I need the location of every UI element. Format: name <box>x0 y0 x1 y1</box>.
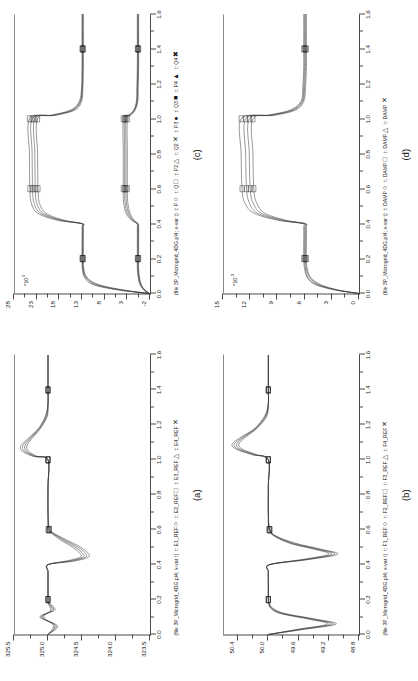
legend-marker-cross-icon: ✕ <box>381 97 388 103</box>
x-tick-minor-b <box>359 476 363 477</box>
x-tick-label-b: 1.0 <box>364 455 371 464</box>
x-tick-label-c: 0.8 <box>155 149 162 158</box>
y-tick-label-a: 325.0 <box>38 641 45 656</box>
y-tick-label-d: 9 <box>267 301 274 304</box>
legend-d: (file 3P_Microgrid_4DG.pl4; x-var t)t: D… <box>381 6 388 295</box>
x-tick-label-a: 0.6 <box>155 525 162 534</box>
x-tick-label-d: 1.0 <box>364 115 371 124</box>
legend-entry-label: t: Q2 <box>173 143 179 154</box>
y-tick-minor-d <box>344 294 345 298</box>
x-tick-minor-d <box>359 170 363 171</box>
x-tick-label-b: 0.8 <box>364 490 371 499</box>
x-tick-minor-d <box>359 135 363 136</box>
x-tick-minor-a <box>150 441 154 442</box>
legend-entry-d: t: DAMP○ <box>381 185 388 210</box>
legend-entry-b: t: F2_REF□ <box>381 488 388 517</box>
y-tick-minor-d <box>290 294 291 298</box>
x-tick-minor-d <box>359 275 363 276</box>
y-tick-label-d: 15 <box>213 301 220 308</box>
y-tick-c <box>126 294 127 300</box>
y-tick-a <box>47 634 48 640</box>
x-tick-label-c: 0.0 <box>155 289 162 298</box>
curve-marker-d <box>239 116 243 122</box>
y-tick-label-b: 48.8 <box>349 641 356 653</box>
x-tick-label-b: 1.4 <box>364 385 371 394</box>
legend-entry-b: t: F3_REF△ <box>381 455 388 485</box>
x-tick-label-a: 1.6 <box>155 350 162 359</box>
x-tick-label-b: 0.4 <box>364 560 371 569</box>
y-tick-c <box>36 294 37 300</box>
legend-entry-label: t: F2_REF <box>382 494 388 518</box>
x-tick-label-d: 1.4 <box>364 45 371 54</box>
x-tick-label-a: 1.4 <box>155 385 162 394</box>
legend-marker-triangle-icon: △ <box>381 455 388 460</box>
y-tick-minor-b <box>282 634 283 638</box>
legend-source-file-b: (file 3P_Microgrid_4DG.pl4; x-var t) <box>382 553 388 635</box>
x-tick-minor-b <box>359 581 363 582</box>
y-tick-label-a: 325.5 <box>4 641 11 656</box>
legend-entry-d: t: DAMP□ <box>381 157 388 182</box>
legend-entry-label: t: F4_REF <box>382 427 388 451</box>
legend-entry-label: t: Q3 <box>173 101 179 112</box>
x-tick-minor-c <box>150 135 154 136</box>
x-tick-label-d: 1.2 <box>364 80 371 89</box>
curve-a <box>27 355 82 635</box>
legend-entry-c: t: Q3■ <box>172 95 179 112</box>
legend-marker-square-icon: □ <box>172 488 179 492</box>
curve-layer-d <box>223 14 359 294</box>
y-tick-minor-b <box>343 634 344 638</box>
y-tick-c <box>58 294 59 300</box>
y-tick-label-c: 13 <box>72 301 79 308</box>
x-tick-minor-c <box>150 170 154 171</box>
x-tick-label-b: 1.2 <box>364 420 371 429</box>
x-tick-label-a: 0.2 <box>155 595 162 604</box>
x-tick-minor-c <box>150 100 154 101</box>
y-tick-label-b: 49.2 <box>318 641 325 653</box>
legend-entry-label: t: E3_REF <box>173 460 179 484</box>
y-tick-label-d: 12 <box>240 301 247 308</box>
curve-a <box>22 355 86 635</box>
y-tick-a <box>115 634 116 640</box>
legend-entry-label: t: P <box>173 202 179 210</box>
legend-entry-a: t: E4_REF✕ <box>172 419 179 450</box>
x-tick-minor-a <box>150 616 154 617</box>
legend-entry-a: t: E3_REF△ <box>172 454 179 484</box>
y-tick-label-b: 50.4 <box>228 641 235 653</box>
x-tick-minor-c <box>150 275 154 276</box>
y-tick-minor-a <box>98 634 99 638</box>
legend-entry-a: t: E2_REF□ <box>172 488 179 517</box>
legend-marker-bold-cross-icon: ✖ <box>172 50 179 56</box>
legend-entry-c: t: P○ <box>172 197 179 210</box>
legend-entry-label: t: E1_REF <box>173 526 179 550</box>
y-tick-minor-b <box>252 634 253 638</box>
legend-entry-label: t: P2 <box>173 164 179 175</box>
legend-entry-d: t: DAMP✕ <box>381 97 388 123</box>
y-tick-b <box>358 634 359 640</box>
y-tick-label-d: 0 <box>349 301 356 304</box>
y-tick-b <box>237 634 238 640</box>
legend-entry-label: t: F3_REF <box>382 461 388 485</box>
legend-entry-a: t: E1_REF○ <box>172 521 179 550</box>
legend-entry-label: t: P3 <box>173 121 179 132</box>
x-tick-minor-a <box>150 371 154 372</box>
x-tick-label-a: 0.0 <box>155 630 162 639</box>
panel-d: *10-3 036912150.00.20.40.60.81.01.21.41.… <box>209 0 418 341</box>
x-tick-label-a: 0.8 <box>155 490 162 499</box>
y-tick-minor-c <box>115 294 116 298</box>
legend-entry-d: t: DAMP△ <box>381 127 388 152</box>
x-tick-minor-d <box>359 30 363 31</box>
legend-marker-circle-icon: ○ <box>172 197 179 201</box>
legend-source-file-a: (file 3P_Microgrid_4DG.pl4; x-var t) <box>173 553 179 635</box>
x-tick-label-b: 0.0 <box>364 630 371 639</box>
curve-d <box>239 14 359 294</box>
legend-marker-circle-icon: ○ <box>172 521 179 525</box>
x-tick-label-c: 0.4 <box>155 219 162 228</box>
x-tick-label-d: 0.4 <box>364 219 371 228</box>
panel-caption-b: (b) <box>400 355 411 636</box>
legend-entry-c: t: Q4✖ <box>172 50 179 68</box>
x-tick-minor-c <box>150 30 154 31</box>
curve-c <box>31 14 149 294</box>
y-tick-d <box>249 294 250 300</box>
x-tick-label-a: 1.0 <box>155 455 162 464</box>
y-tick-label-d: 6 <box>294 301 301 304</box>
